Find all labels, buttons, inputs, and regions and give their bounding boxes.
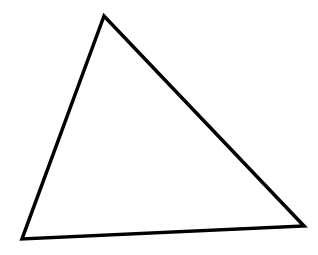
diagram-canvas [0, 0, 318, 255]
triangle-shape [22, 16, 304, 239]
